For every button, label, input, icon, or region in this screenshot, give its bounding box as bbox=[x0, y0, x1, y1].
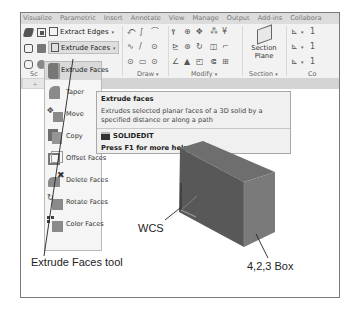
box-side-face bbox=[244, 172, 275, 247]
box-callout: 4,2,3 Box bbox=[247, 260, 293, 272]
wcs-leader-line bbox=[165, 208, 180, 220]
wcs-callout: WCS bbox=[138, 222, 164, 234]
extrude-faces-tool-callout: Extrude Faces tool bbox=[31, 256, 123, 268]
tool-leader-line bbox=[44, 59, 73, 256]
